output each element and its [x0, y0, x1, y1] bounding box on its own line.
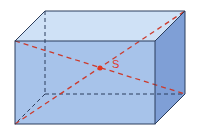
cuboid-diagram: S: [0, 0, 200, 134]
cuboid-svg: [0, 0, 200, 134]
front-face: [15, 41, 155, 124]
center-point: [98, 66, 103, 71]
center-label: S: [112, 58, 119, 70]
